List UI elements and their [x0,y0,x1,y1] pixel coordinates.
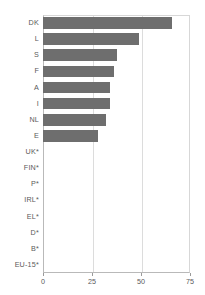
bar-row [43,192,190,208]
x-tick-label-75: 75 [186,277,194,286]
bar-row [43,241,190,257]
bar-i [43,98,110,110]
category-label-el: EL* [27,209,39,225]
category-label-f: F [34,63,39,79]
x-tick-75 [190,273,191,276]
category-label-a: A [34,80,39,96]
bar-nl [43,114,106,126]
x-tick-label-50: 50 [137,277,145,286]
bar-a [43,82,110,94]
bar-row [43,15,190,31]
category-label-s: S [34,47,39,63]
x-tick-0 [43,273,44,276]
category-label-uk: UK* [26,144,39,160]
bar-f [43,66,114,78]
category-label-d: D* [31,225,39,241]
bar-dk [43,17,172,29]
bar-e [43,130,98,142]
bar-row [43,128,190,144]
bar-l [43,33,139,45]
x-tick-label-25: 25 [88,277,96,286]
bar-row [43,144,190,160]
category-label-e: E [34,128,39,144]
bar-row [43,160,190,176]
category-label-nl: NL [29,112,39,128]
x-tick-50 [141,273,142,276]
x-tick-label-0: 0 [41,277,45,286]
y-axis-category-labels: DK L S F A I NL E UK* FIN* P* IRL* EL* D… [0,15,39,273]
category-label-l: L [35,31,39,47]
bar-chart: DK L S F A I NL E UK* FIN* P* IRL* EL* D… [0,0,205,295]
bar-series [43,15,190,273]
bar-row [43,80,190,96]
category-label-eu15: EU-15* [15,257,39,273]
bar-row [43,209,190,225]
bar-row [43,47,190,63]
bar-row [43,112,190,128]
bar-row [43,225,190,241]
bar-row [43,63,190,79]
category-label-dk: DK [29,15,39,31]
category-label-b: B* [31,241,39,257]
bar-row [43,257,190,273]
bar-row [43,31,190,47]
category-label-p: P* [31,176,39,192]
category-label-fin: FIN* [24,160,39,176]
bar-s [43,49,117,61]
bar-row [43,96,190,112]
category-label-irl: IRL* [24,192,39,208]
bar-row [43,176,190,192]
x-tick-25 [92,273,93,276]
category-label-i: I [37,96,39,112]
